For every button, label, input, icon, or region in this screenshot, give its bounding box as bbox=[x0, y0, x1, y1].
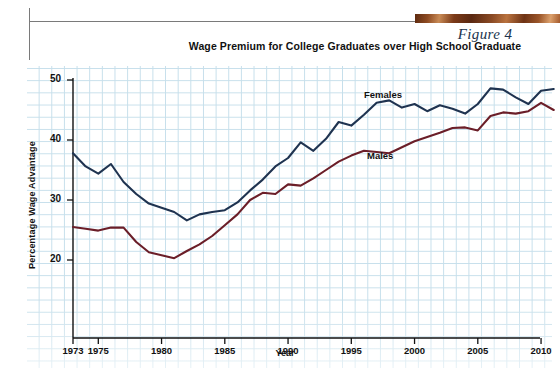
y-tick-label: 40 bbox=[37, 133, 61, 144]
y-tick-label: 20 bbox=[37, 253, 61, 264]
x-tick-label: 1995 bbox=[331, 345, 371, 356]
x-tick-label: 2010 bbox=[521, 345, 560, 356]
series-line-females bbox=[73, 88, 554, 220]
y-axis-title: Percentage Wage Advantage bbox=[27, 135, 37, 275]
chart-plot-area: Percentage Wage Advantage Year 20304050 … bbox=[0, 0, 560, 380]
x-tick-label: 2000 bbox=[395, 345, 435, 356]
x-tick-label: 1975 bbox=[78, 345, 118, 356]
series-label-females: Females bbox=[364, 89, 402, 100]
series-label-males: Males bbox=[367, 150, 393, 161]
series-line-males bbox=[73, 103, 554, 258]
y-tick-label: 30 bbox=[37, 193, 61, 204]
x-tick-label: 1985 bbox=[205, 345, 245, 356]
y-axis-ticks bbox=[67, 80, 73, 260]
x-tick-label: 1980 bbox=[142, 345, 182, 356]
chart-svg bbox=[0, 0, 560, 380]
figure-page: Figure 4 Wage Premium for College Gradua… bbox=[0, 0, 560, 380]
x-tick-label: 1990 bbox=[268, 345, 308, 356]
chart-series-lines bbox=[73, 88, 554, 258]
x-tick-label: 2005 bbox=[458, 345, 498, 356]
y-tick-label: 50 bbox=[37, 73, 61, 84]
chart-axes bbox=[73, 78, 540, 338]
x-axis-ticks bbox=[73, 338, 541, 344]
